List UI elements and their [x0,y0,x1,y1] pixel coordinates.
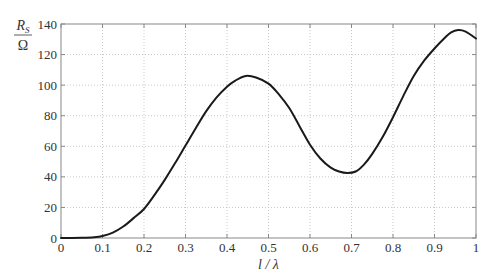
plot-frame [61,24,476,238]
axis-ticks [61,24,476,238]
x-tick-label: 0 [58,240,65,255]
y-tick-label: 140 [38,17,58,32]
x-tick-label: 0.2 [136,240,152,255]
y-tick-label: 80 [44,108,57,123]
x-tick-label: 0.7 [343,240,360,255]
y-tick-label: 20 [44,200,57,215]
x-tick-label: 0.4 [219,240,236,255]
x-tick-label: 0.6 [302,240,319,255]
y-tick-label: 0 [51,231,58,246]
y-axis-label-top: RS [15,18,30,35]
grid-lines [61,24,476,238]
x-tick-label: 0.9 [426,240,442,255]
y-tick-label: 100 [38,78,58,93]
x-tick-label: 0.8 [385,240,401,255]
x-tick-label: 0.3 [177,240,193,255]
x-axis-label: l / λ [258,257,279,272]
y-tick-label: 120 [38,47,58,62]
y-tick-labels: 020406080100120140 [38,17,58,246]
y-axis-label-unit: Ω [18,38,28,53]
x-tick-label: 0.5 [260,240,276,255]
x-tick-labels: 00.10.20.30.40.50.60.70.80.91 [58,240,480,255]
y-tick-label: 40 [44,169,57,184]
y-tick-label: 60 [44,139,57,154]
x-tick-label: 0.1 [94,240,110,255]
y-axis-label: RS Ω [14,18,32,53]
y-axis-symbol: R [15,18,25,33]
y-axis-subscript: S [25,25,30,35]
x-tick-label: 1 [473,240,480,255]
series-line-rs [61,30,476,238]
line-chart: 00.10.20.30.40.50.60.70.80.91 0204060801… [0,0,500,279]
